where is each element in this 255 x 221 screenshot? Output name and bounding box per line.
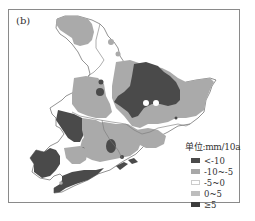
legend-title: 单位:mm/10a [185, 140, 240, 153]
region-mid-north [56, 16, 94, 46]
legend-swatch [191, 169, 200, 174]
legend-item: -10~-5 [185, 166, 240, 177]
region-mid-dot [59, 181, 63, 185]
region-white-dot [153, 100, 159, 106]
region-white-dot [143, 100, 149, 106]
legend-label: <-10 [204, 156, 225, 166]
region-dark-southeast [128, 158, 138, 164]
legend-label: ≥5 [204, 200, 217, 210]
legend-label: -5~0 [204, 178, 225, 188]
legend-swatch [191, 180, 200, 185]
legend-swatch [191, 158, 200, 163]
legend-label: 0~5 [204, 189, 222, 199]
legend: 单位:mm/10a <-10 -10~-5 -5~0 0~5 ≥5 [185, 140, 240, 210]
legend-swatch [191, 191, 200, 196]
region-mid-dot [108, 39, 114, 45]
region-mid-dot [116, 52, 121, 57]
legend-label: -10~-5 [204, 167, 233, 177]
legend-item: <-10 [185, 155, 240, 166]
region-dark-dot [96, 88, 104, 96]
region-dark-dot [175, 117, 178, 120]
legend-item: -5~0 [185, 177, 240, 188]
legend-item: 0~5 [185, 188, 240, 199]
region-dark-dot [99, 80, 104, 85]
legend-swatch [191, 202, 200, 207]
legend-item: ≥5 [185, 199, 240, 210]
